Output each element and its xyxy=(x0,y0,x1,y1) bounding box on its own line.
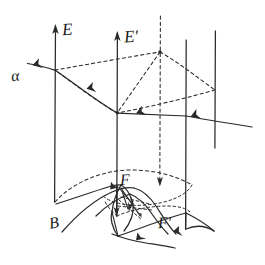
incoming-ray xyxy=(117,106,252,127)
vertical-field-line-E xyxy=(52,24,59,202)
physics-diagram-figure: E Eʹ α B F Fʹ xyxy=(0,0,265,265)
dashed-parallelogram xyxy=(55,50,215,114)
label-surface-F: F xyxy=(120,172,131,188)
label-field-E-prime: Eʹ xyxy=(123,28,138,46)
alpha-particle-track xyxy=(28,58,118,113)
vertical-dashed-axis xyxy=(157,16,163,187)
bottom-corrugated-surface xyxy=(56,185,214,236)
label-surface-F-prime: Fʹ xyxy=(158,215,172,232)
vertical-line-back-right xyxy=(186,40,187,229)
label-field-E: E xyxy=(61,21,73,39)
